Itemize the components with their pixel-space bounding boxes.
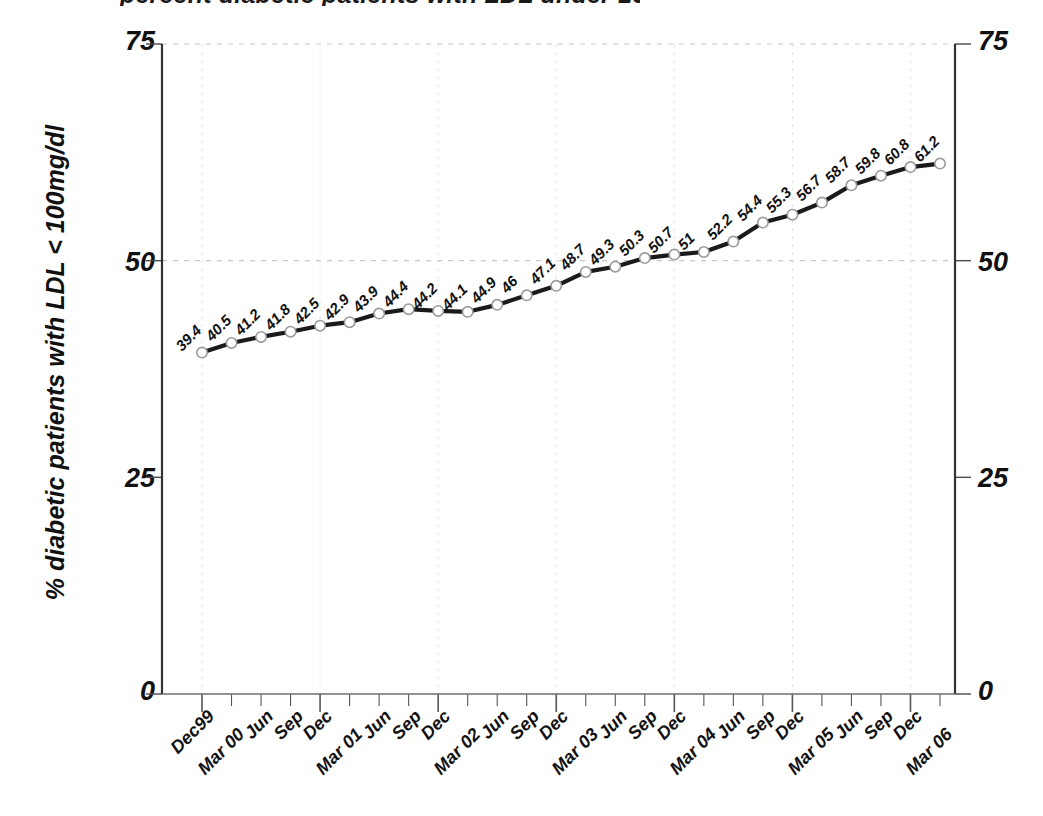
plot-area: [0, 0, 1043, 816]
x-tick-marks: [202, 44, 940, 712]
chart-container: percent diabetic patients with LDL under…: [0, 0, 1043, 816]
y-tick-marks: [146, 44, 971, 694]
gridlines: [162, 44, 955, 261]
